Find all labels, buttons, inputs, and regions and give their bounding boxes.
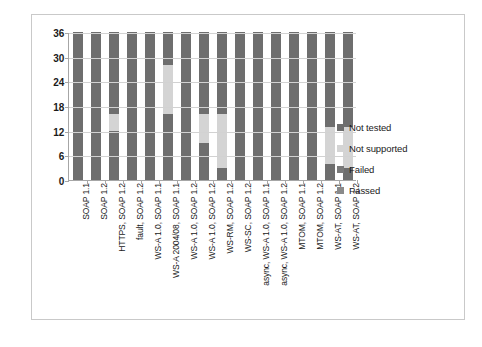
y-axis-tick-label: 12 xyxy=(53,126,64,137)
bar xyxy=(307,32,316,180)
bar xyxy=(271,32,280,180)
bar xyxy=(127,32,136,180)
chart-page: 061218243036 SOAP 1.1SOAP 1.2HTTPS, SOAP… xyxy=(0,0,482,347)
y-axis-tick-label: 6 xyxy=(59,151,64,162)
bar-segment-passed xyxy=(199,143,208,180)
legend-item[interactable]: Not tested xyxy=(337,118,432,136)
legend-swatch-icon xyxy=(337,166,344,173)
gridline xyxy=(69,132,356,133)
x-axis-label: SOAP 1.1 xyxy=(81,183,91,220)
x-axis-label: async, WS-A 1.0, SOAP 1.2 xyxy=(279,183,289,286)
bar-segment-passed xyxy=(217,168,226,180)
y-axis-tick-mark xyxy=(65,33,69,34)
legend-swatch-icon xyxy=(337,124,344,131)
bar-segment-not-tested xyxy=(109,32,118,114)
bar xyxy=(91,32,100,180)
y-axis-tick-mark xyxy=(65,181,69,182)
gridline xyxy=(69,33,356,34)
bar xyxy=(73,32,82,180)
bar-segment-passed xyxy=(127,32,136,180)
plot-area xyxy=(68,33,356,181)
y-axis-tick-label: 36 xyxy=(53,28,64,39)
gridline xyxy=(69,82,356,83)
x-axis-label: WS-SC, SOAP 1.2 xyxy=(243,183,253,252)
bar-segment-not-tested xyxy=(163,32,172,65)
y-axis-tick-mark xyxy=(65,156,69,157)
legend-item[interactable]: Failed xyxy=(337,160,432,178)
bar xyxy=(235,32,244,180)
gridline xyxy=(69,156,356,157)
x-axis-label: async, WS-A 1.0, SOAP 1.1 xyxy=(261,183,271,286)
y-axis-tick-mark xyxy=(65,107,69,108)
bar-segment-passed xyxy=(289,32,298,180)
y-axis-tick-label: 18 xyxy=(53,102,64,113)
legend-item[interactable]: Not supported xyxy=(337,139,432,157)
bar xyxy=(145,32,154,180)
x-axis-label: fault, SOAP 1.2 xyxy=(135,183,145,240)
bar-segment-passed xyxy=(109,131,118,180)
x-axis-label: SOAP 1.2 xyxy=(99,183,109,220)
bar-segment-not-supported xyxy=(109,114,118,130)
y-axis-tick-mark xyxy=(65,82,69,83)
bar xyxy=(325,32,334,180)
x-axis-label: MTOM, SOAP 1.2 xyxy=(315,183,325,250)
bar-segment-passed xyxy=(325,164,334,180)
x-axis-labels: SOAP 1.1SOAP 1.2HTTPS, SOAP 1.2fault, SO… xyxy=(68,183,356,313)
y-axis-tick-mark xyxy=(65,132,69,133)
bar-segment-passed xyxy=(163,114,172,180)
x-axis-label: WS-A 2004/08, SOAP 1.1 xyxy=(171,183,181,278)
legend-label: Failed xyxy=(349,164,374,175)
bar-segment-passed xyxy=(145,32,154,180)
x-axis-label: HTTPS, SOAP 1.2 xyxy=(117,183,127,252)
x-axis-label: WS-A 1.0, SOAP 1.2 xyxy=(207,183,217,259)
legend-swatch-icon xyxy=(337,145,344,152)
legend-swatch-icon xyxy=(337,187,344,194)
chart-legend: Not testedNot supportedFailedPassed xyxy=(337,118,432,202)
gridline xyxy=(69,107,356,108)
x-axis-label: WS-RM, SOAP 1.2 xyxy=(225,183,235,254)
bar xyxy=(199,32,208,180)
x-axis-label: WS-A 1.0, SOAP 1.1 xyxy=(153,183,163,259)
bar-segment-passed xyxy=(271,32,280,180)
bar xyxy=(163,32,172,180)
y-axis-tick-mark xyxy=(65,58,69,59)
bar-segment-passed xyxy=(307,32,316,180)
bar xyxy=(181,32,190,180)
bar xyxy=(253,32,262,180)
y-axis-tick-label: 30 xyxy=(53,52,64,63)
bar-segment-not-tested xyxy=(325,32,334,127)
bar xyxy=(289,32,298,180)
y-axis-tick-label: 0 xyxy=(59,176,64,187)
bar-segment-not-tested xyxy=(343,32,352,127)
y-axis-tick-label: 24 xyxy=(53,77,64,88)
x-axis-label: WS-A 1.0, SOAP 1.2 xyxy=(189,183,199,259)
bar-segment-not-supported xyxy=(217,114,226,167)
x-axis-label: MTOM, SOAP 1.1 xyxy=(297,183,307,250)
bar-segment-passed xyxy=(181,32,190,180)
gridline xyxy=(69,58,356,59)
bar-segment-passed xyxy=(73,32,82,180)
legend-label: Not tested xyxy=(349,122,391,133)
bar-segment-passed xyxy=(91,32,100,180)
bar xyxy=(109,32,118,180)
bar-segment-passed xyxy=(235,32,244,180)
bar-segment-not-tested xyxy=(199,32,208,114)
bar-segment-not-supported xyxy=(199,114,208,143)
legend-label: Passed xyxy=(349,185,380,196)
y-axis: 061218243036 xyxy=(38,33,64,181)
legend-item[interactable]: Passed xyxy=(337,181,432,199)
bar xyxy=(217,32,226,180)
legend-label: Not supported xyxy=(349,143,407,154)
bar-segment-not-tested xyxy=(217,32,226,114)
bar-segment-passed xyxy=(253,32,262,180)
